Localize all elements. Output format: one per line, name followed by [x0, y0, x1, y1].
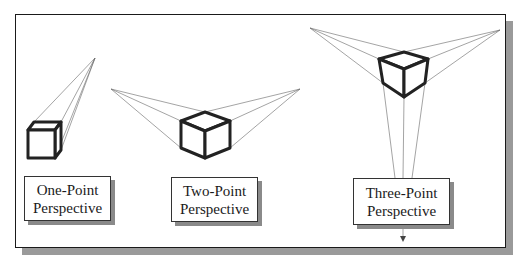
label-three-point-line1: Three-Point: [366, 184, 438, 202]
two-point-cube: [181, 112, 230, 158]
three-point-cube: [379, 52, 428, 97]
label-three-point: Three-Point Perspective: [353, 178, 450, 225]
one-point-cube: [28, 122, 61, 158]
label-two-point: Two-Point Perspective: [171, 177, 258, 222]
label-three-point-line2: Perspective: [367, 202, 436, 220]
label-two-point-line2: Perspective: [180, 200, 249, 218]
label-one-point-line1: One-Point: [37, 181, 99, 199]
label-two-point-line1: Two-Point: [183, 182, 246, 200]
label-one-point: One-Point Perspective: [24, 176, 111, 221]
three-point-arrow-tip: [400, 236, 406, 242]
label-one-point-line2: Perspective: [33, 199, 102, 217]
